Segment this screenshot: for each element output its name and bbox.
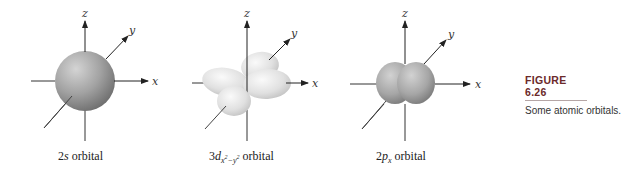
label-subscript: x2−y2: [221, 156, 240, 165]
x-axis-label: x: [152, 75, 159, 88]
y-axis-label: y: [128, 24, 136, 37]
y-axis-upper: [106, 36, 128, 59]
y-axis-upper: [269, 39, 290, 60]
y-axis-upper: [424, 40, 446, 64]
d-orbital-diagram: z y x: [192, 7, 319, 141]
y-axis-lower-front: [362, 101, 386, 129]
label-suffix: orbital: [240, 149, 274, 163]
z-axis-label: z: [401, 7, 408, 20]
p-orbital-diagram: z y x: [350, 7, 482, 141]
p-lobe-positive: [397, 62, 435, 104]
p-orbital-label: 2px orbital: [376, 149, 426, 165]
x-axis-label: x: [475, 78, 482, 91]
label-suffix: orbital: [69, 149, 103, 163]
y-axis-lower: [205, 106, 226, 129]
figure-caption: FIGURE 6.26 Some atomic orbitals.: [525, 74, 625, 116]
figure-number: FIGURE 6.26: [525, 74, 587, 101]
label-suffix: orbital: [392, 149, 426, 163]
s-orbital-sphere: [55, 51, 115, 111]
d-lobe-front: [217, 86, 251, 116]
y-axis-label: y: [447, 28, 455, 41]
z-axis-label: z: [243, 7, 250, 20]
s-orbital-diagram: z y x: [31, 7, 159, 141]
y-axis-label: y: [290, 27, 298, 40]
s-orbital-label: 2s orbital: [58, 149, 103, 164]
sub-minus-y: −y: [228, 156, 237, 165]
x-axis-label: x: [312, 77, 319, 90]
y-axis-lower-front: [44, 96, 72, 128]
d-orbital-label: 3dx2−y2 orbital: [209, 149, 274, 165]
caption-text: Some atomic orbitals.: [525, 105, 625, 116]
z-axis-label: z: [81, 7, 88, 20]
